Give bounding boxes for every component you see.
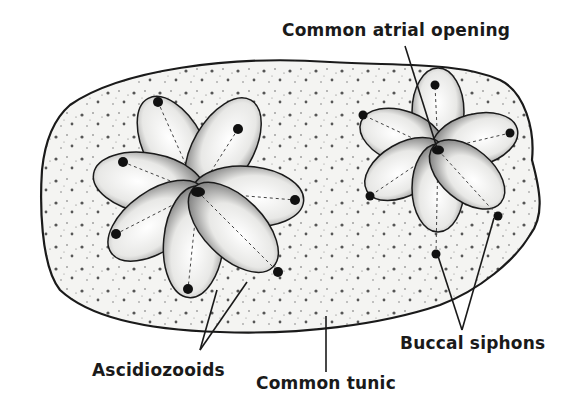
ascidian-colony-drawing [0,0,578,420]
label-common-atrial-opening: Common atrial opening [282,20,510,40]
common-atrial-opening-right [432,146,444,155]
common-atrial-opening-left [191,187,205,197]
label-buccal-siphons: Buccal siphons [400,333,545,353]
label-ascidiozooids: Ascidiozooids [92,360,225,380]
label-common-tunic: Common tunic [256,373,396,393]
